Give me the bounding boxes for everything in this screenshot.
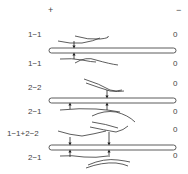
panel-3-bar — [49, 145, 176, 150]
panel-2-bar — [49, 98, 176, 103]
panel-3-top-strand-b — [90, 126, 128, 132]
panel-3-top-strand-a — [58, 131, 106, 136]
panel-2-bottom-strand-b — [92, 112, 135, 123]
panel-1-bottom-strand-b — [75, 59, 118, 65]
panel-3-bottom-strand-a — [60, 156, 108, 158]
diagram-figure — [0, 0, 188, 174]
panel-1 — [49, 36, 176, 65]
panel-1-top-strand-b — [75, 36, 108, 39]
panel-3 — [49, 122, 176, 168]
panel-2 — [49, 79, 176, 122]
panel-1-bar — [49, 48, 176, 53]
panel-3-top-strand-c — [92, 122, 118, 128]
